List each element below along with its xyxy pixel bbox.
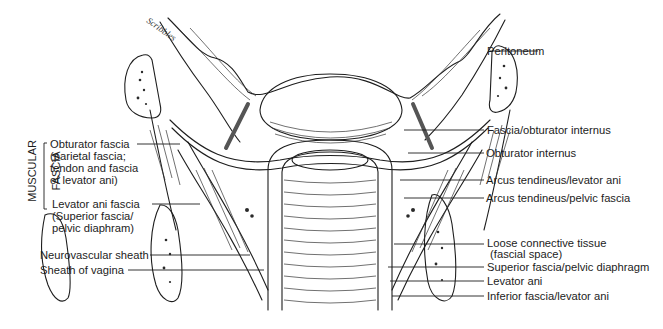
left-upper-bone xyxy=(125,55,161,118)
artist-signature: Scribbles xyxy=(145,15,179,43)
label-obturator-internus: Obturator internus xyxy=(486,147,576,159)
label-neurovascular-sheath: Neurovascular sheath xyxy=(40,249,149,261)
label-levator-ani: Levator ani xyxy=(487,275,542,287)
label-obturator-fascia: Obturator fascia (parietal fascia; tendo… xyxy=(50,138,138,186)
label-levator-ani-fascia: Levator ani fascia (Superior fascia/ pel… xyxy=(52,198,140,234)
label-inferior-fascia-levator-ani: Inferior fascia/levator ani xyxy=(487,290,609,302)
label-loose-connective-tissue: Loose connective tissue (fascial space) xyxy=(487,238,606,260)
label-superior-fascia-pelvic-diaphragm: Superior fascia/pelvic diaphragm xyxy=(487,261,649,273)
label-arcus-tendineus-pelvic-fascia: Arcus tendineus/pelvic fascia xyxy=(486,192,630,204)
label-fascia-obturator-internus: Fascia/obturator internus xyxy=(487,124,611,136)
uterine-dome xyxy=(260,74,402,140)
label-sheath-of-vagina: Sheath of vagina xyxy=(40,264,124,276)
vagina-outline xyxy=(268,140,392,310)
anatomical-figure: Scribbles MUSCULAR FASCIA Obturator fa xyxy=(0,0,663,329)
group-title-line1: MUSCULAR xyxy=(26,140,38,202)
label-arcus-tendineus-levator-ani: Arcus tendineus/levator ani xyxy=(486,174,621,186)
label-peritoneum: Peritoneum xyxy=(487,45,544,57)
